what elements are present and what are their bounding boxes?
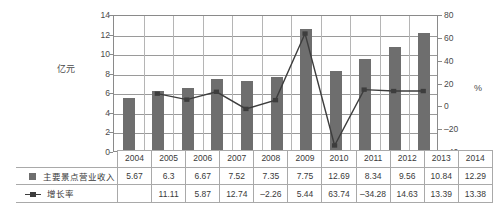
- y-axis-left-tick-label: 12: [84, 31, 110, 39]
- table-header-row: 2004200520062007200820092010201120122013…: [16, 151, 492, 168]
- table-row: 主要景点营业收入5.676.36.677.527.357.7512.698.34…: [16, 167, 492, 185]
- y-axis-right-tick-label: 60: [444, 34, 470, 42]
- table-corner-cell: [16, 151, 118, 168]
- y-axis-right-tickmark: [438, 38, 442, 39]
- table-header-year: 2004: [118, 151, 152, 168]
- table-cell-value: 7.35: [254, 167, 288, 185]
- y-axis-right-tickmark: [438, 15, 442, 16]
- table-cell-value: 10.84: [424, 167, 458, 185]
- legend-label: 主要景点营业收入: [43, 171, 115, 181]
- y-axis-left-tick-label: 4: [84, 109, 110, 117]
- table-cell-value: 12.69: [322, 167, 356, 185]
- table-header-year: 2006: [186, 151, 220, 168]
- table-cell-value: 13.38: [458, 185, 492, 203]
- line-marker: [155, 91, 160, 95]
- table-header-year: 2013: [424, 151, 458, 168]
- y-axis-right-tickmark: [438, 61, 442, 62]
- y-axis-right-tick-label: 80: [444, 11, 470, 19]
- table-cell-value: 5.67: [118, 167, 152, 185]
- y-axis-left-tick-label: 6: [84, 89, 110, 97]
- table-cell-value: [118, 185, 152, 203]
- y-axis-left-tick-label: 8: [84, 70, 110, 78]
- table-header-year: 2011: [356, 151, 390, 168]
- table-header-year: 2010: [322, 151, 356, 168]
- table-cell-value: 12.29: [458, 167, 492, 185]
- table-cell-value: 9.56: [390, 167, 424, 185]
- legend-square-icon: [29, 173, 36, 180]
- table-cell-value: 6.3: [152, 167, 186, 185]
- y-axis-left-tick-label: 10: [84, 50, 110, 58]
- table-cell-value: 14.63: [390, 185, 424, 203]
- y-axis-right-tickmark: [438, 84, 442, 85]
- line-marker: [243, 107, 248, 111]
- line-marker: [362, 87, 367, 91]
- y-axis-right-tick-label: –20: [444, 125, 470, 133]
- table-cell-value: 13.39: [424, 185, 458, 203]
- legend-line-marker-icon: [25, 191, 41, 198]
- legend-label: 增长率: [47, 189, 74, 199]
- table-cell-value: 8.34: [356, 167, 390, 185]
- y-axis-right-tickmark: [438, 129, 442, 130]
- line-marker: [273, 98, 278, 102]
- y-axis-left-tick-label: 2: [84, 128, 110, 136]
- y-axis-left-title: 亿元: [57, 62, 75, 75]
- table-cell-value: 5.87: [186, 185, 220, 203]
- y-axis-right-tick-label: 20: [444, 80, 470, 88]
- table-cell-value: 6.67: [186, 167, 220, 185]
- line-marker: [302, 31, 307, 35]
- table-header-year: 2009: [288, 151, 322, 168]
- table-cell-value: 7.52: [220, 167, 254, 185]
- y-axis-right-tickmark: [438, 106, 442, 107]
- line-marker: [421, 89, 426, 93]
- table-cell-value: 7.75: [288, 167, 322, 185]
- chart-figure: 亿元 % 14121086420 806040200–20–40 2004200…: [0, 0, 493, 204]
- line-marker: [332, 143, 337, 147]
- legend-cell[interactable]: 主要景点营业收入: [16, 167, 118, 185]
- table-cell-value: 5.44: [288, 185, 322, 203]
- table-cell-value: –34.28: [356, 185, 390, 203]
- table-row: 增长率11.115.8712.74–2.265.4463.74–34.2814.…: [16, 185, 492, 203]
- table-cell-value: –2.26: [254, 185, 288, 203]
- table-cell-value: 12.74: [220, 185, 254, 203]
- table-header-year: 2005: [152, 151, 186, 168]
- y-axis-right-tick-label: 0: [444, 102, 470, 110]
- legend-cell[interactable]: 增长率: [16, 185, 118, 203]
- series-table: 2004200520062007200820092010201120122013…: [16, 150, 493, 203]
- table-cell-value: 63.74: [322, 185, 356, 203]
- table-header-year: 2008: [254, 151, 288, 168]
- table-header-year: 2014: [458, 151, 492, 168]
- line-marker: [391, 89, 396, 93]
- y-axis-right-title: %: [474, 83, 482, 93]
- table-cell-value: 11.11: [152, 185, 186, 203]
- table-header-year: 2007: [220, 151, 254, 168]
- line-marker: [214, 90, 219, 94]
- table-header-year: 2012: [390, 151, 424, 168]
- line-series: [113, 15, 438, 152]
- y-axis-left-tick-label: 14: [84, 11, 110, 19]
- line-marker: [184, 97, 189, 101]
- data-table: 2004200520062007200820092010201120122013…: [16, 150, 477, 203]
- y-axis-right-tick-label: 40: [444, 57, 470, 65]
